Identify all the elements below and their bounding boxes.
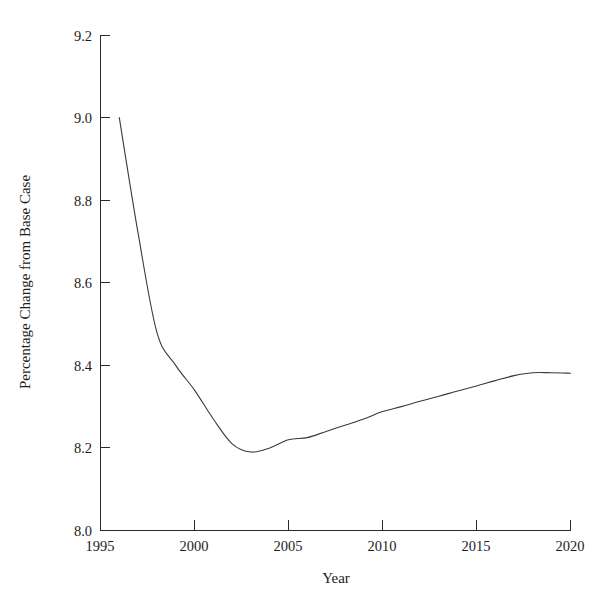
x-tick-label: 2010 [368,538,397,554]
x-axis-tick-labels: 1995 2000 2005 2010 2015 2020 [86,538,585,554]
y-tick-label: 8.6 [74,275,92,291]
x-tick-label: 2015 [462,538,491,554]
y-axis-title: Percentage Change from Base Case [17,175,33,389]
x-tick-label: 2005 [274,538,303,554]
x-tick-label: 2020 [556,538,585,554]
line-chart: Percentage Change from Base Case Year 9.… [0,0,608,596]
y-axis-ticks [100,36,110,531]
y-axis-tick-labels: 9.2 9.0 8.8 8.6 8.4 8.2 8.0 [74,28,93,539]
y-tick-label: 8.2 [74,440,92,456]
y-tick-label: 9.0 [74,110,92,126]
x-axis-ticks [101,520,571,530]
y-tick-label: 8.8 [74,193,92,209]
y-tick-label: 8.4 [74,358,93,374]
x-axis-title: Year [322,570,350,586]
x-tick-label: 2000 [180,538,209,554]
chart-figure: Percentage Change from Base Case Year 9.… [0,0,608,596]
y-tick-label: 9.2 [74,28,92,44]
x-tick-label: 1995 [86,538,115,554]
data-line-series [119,118,570,453]
y-tick-label: 8.0 [74,523,92,539]
